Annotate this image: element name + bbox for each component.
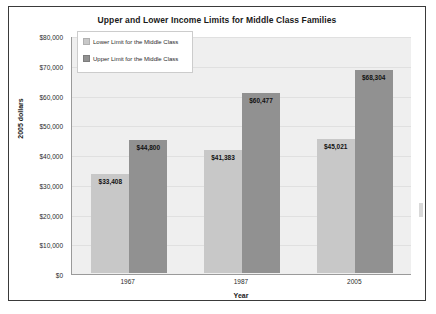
bar-value-label: $41,383 (211, 154, 235, 161)
x-tick-label: 2005 (298, 278, 411, 292)
bar-value-label: $33,408 (99, 178, 123, 185)
bar[interactable]: $44,800 (129, 140, 167, 273)
scroll-artifact (419, 203, 423, 217)
y-tick-label: $60,000 (40, 93, 64, 100)
bar-group: $41,383$60,477 (186, 37, 299, 273)
bar[interactable]: $33,408 (91, 174, 129, 273)
x-tick-label: 1967 (71, 278, 184, 292)
chart-legend: Lower Limit for the Middle ClassUpper Li… (77, 31, 193, 73)
bar[interactable]: $68,304 (355, 70, 393, 273)
legend-swatch-icon (83, 55, 90, 62)
bar[interactable]: $41,383 (204, 150, 242, 273)
bar-value-label: $45,021 (324, 143, 348, 150)
legend-swatch-icon (83, 38, 90, 45)
legend-item[interactable]: Lower Limit for the Middle Class (83, 38, 187, 45)
bar-value-label: $44,800 (137, 144, 161, 151)
x-axis-tick-labels: 196719872005 (71, 278, 411, 292)
chart-title: Upper and Lower Income Limits for Middle… (9, 15, 425, 25)
y-tick-label: $10,000 (40, 242, 64, 249)
y-tick-label: $70,000 (40, 63, 64, 70)
y-tick-label: $30,000 (40, 182, 64, 189)
bar[interactable]: $45,021 (317, 139, 355, 273)
y-tick-label: $80,000 (40, 34, 64, 41)
x-tick-label: 1987 (184, 278, 297, 292)
chart-frame: Upper and Lower Income Limits for Middle… (8, 6, 426, 301)
y-axis-tick-labels: $0$10,000$20,000$30,000$40,000$50,000$60… (9, 37, 67, 275)
bar-group: $45,021$68,304 (298, 37, 411, 273)
bar-value-label: $60,477 (249, 97, 273, 104)
y-tick-label: $50,000 (40, 123, 64, 130)
legend-label: Upper Limit for the Middle Class (93, 56, 178, 62)
x-axis-title: Year (71, 292, 411, 299)
y-tick-label: $0 (56, 272, 63, 279)
legend-label: Lower Limit for the Middle Class (93, 39, 178, 45)
bar[interactable]: $60,477 (242, 93, 280, 273)
y-tick-label: $20,000 (40, 212, 64, 219)
y-tick-label: $40,000 (40, 153, 64, 160)
bar-value-label: $68,304 (362, 74, 386, 81)
legend-item[interactable]: Upper Limit for the Middle Class (83, 55, 187, 62)
